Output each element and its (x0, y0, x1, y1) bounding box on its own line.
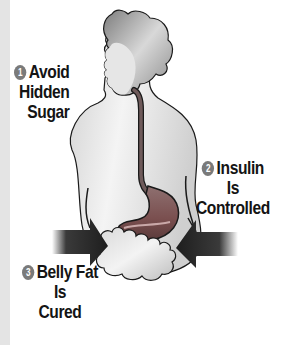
label-line: Avoid (29, 61, 70, 82)
label-insulin-is-controlled: 2Insulin Is Controlled (196, 158, 270, 218)
label-line: Sugar (14, 102, 69, 122)
number-badge-1: 1 (14, 65, 26, 80)
number-badge-3: 3 (22, 265, 34, 280)
label-line: Belly Fat (37, 261, 98, 282)
label-line: Insulin (217, 157, 264, 178)
label-line: Is (196, 178, 270, 198)
label-line: Controlled (196, 198, 270, 218)
label-belly-fat-is-cured: 3Belly Fat Is Cured (22, 262, 98, 322)
label-line: Hidden (14, 82, 69, 102)
number-badge-2: 2 (202, 161, 214, 176)
label-line: Is (22, 282, 98, 302)
label-line: Cured (22, 302, 98, 322)
label-avoid-hidden-sugar: 1Avoid Hidden Sugar (14, 62, 69, 122)
